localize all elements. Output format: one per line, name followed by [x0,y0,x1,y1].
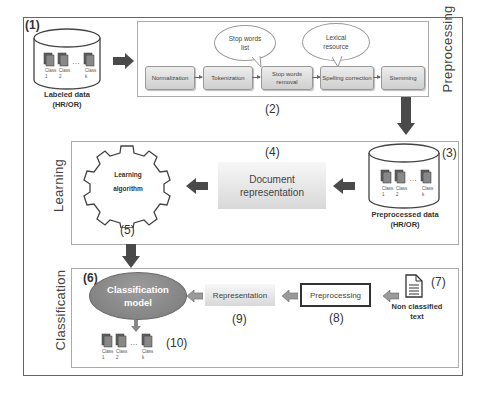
preprocessed-data-database-icon: … [367,143,441,209]
document-icon [405,274,423,298]
preprocessing-number: (8) [329,311,344,325]
output-classes-number: (10) [166,336,187,350]
left-arrow-icon [383,290,399,302]
left-arrow-icon [333,178,355,194]
preprocessing-section-label: Preprocessing [440,23,455,93]
class-label: Classk [422,186,433,198]
representation-box: Representation [205,284,275,306]
learning-algorithm-number: (5) [120,223,135,237]
svg-text:…: … [130,338,138,347]
document-representation-number: (4) [265,145,280,159]
class-label: Class2 [59,68,70,80]
pipeline-number: (2) [265,102,280,116]
step-stop-words-removal: Stop words removal [261,66,313,90]
step-tokenization: Tokenization [203,66,253,90]
class-label: Class2 [116,349,127,361]
classification-section-label: Classification [53,271,68,351]
svg-text:…: … [409,174,417,183]
learning-section-label: Learning [51,156,66,216]
class-label: Class2 [396,186,407,198]
preprocessed-data-label: Preprocessed data(HR/OR) [362,210,448,230]
labeled-data-database-icon: … [32,28,102,90]
left-arrow-icon [282,290,298,302]
classification-model-ellipse: Classificationmodel [89,272,187,320]
left-arrow-icon [187,290,203,302]
class-label: Class1 [45,68,56,80]
left-arrow-icon [186,178,208,194]
step-arrow [312,77,320,78]
stop-words-list-bubble: Stop wordslist [214,25,276,61]
output-classes-icon: … [100,333,160,349]
labeled-data-label: Labeled data(HR/OR) [30,90,104,110]
step-arrow [252,77,260,78]
svg-text:…: … [72,57,80,66]
step-arrow [194,77,202,78]
representation-number: (9) [232,312,247,326]
class-label: Classk [85,68,96,80]
class-label: Class1 [382,186,393,198]
class-label: Classk [142,349,153,361]
non-classified-text-label: Non classifiedtext [384,302,450,322]
down-arrow-icon [397,97,415,135]
step-spelling-correction: Spelling correction [320,66,374,90]
down-arrow-icon [122,244,140,268]
document-representation-box: Documentrepresentation [218,162,326,209]
learning-algorithm-label: Learningalgorithm [99,168,157,196]
preprocessing-box: Preprocessing [300,283,371,307]
preprocessed-data-number: (3) [442,146,457,160]
step-normalization: Normalization [145,66,195,90]
step-arrow [373,77,380,78]
non-classified-text-number: (7) [431,275,446,289]
down-arrow-icon [131,320,141,332]
step-stemming: Stemming [381,66,425,90]
right-arrow-icon [113,53,135,69]
class-label: Class1 [102,349,113,361]
